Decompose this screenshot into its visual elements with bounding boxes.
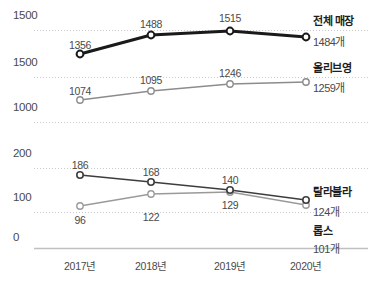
chart-container: 1500 1500 1000 200 100 0 2017년 2018년 201…: [0, 0, 371, 287]
point-label-olive-2017: 1074: [69, 85, 91, 97]
data-point: [77, 51, 84, 58]
x-tick-2017: 2017년: [64, 258, 96, 273]
legend-value-total-stores: 1484개: [313, 33, 345, 49]
point-label-olive-2019: 1246: [219, 67, 241, 79]
point-label-total-2018: 1488: [140, 18, 162, 30]
data-point: [227, 81, 233, 87]
data-point: [148, 88, 154, 94]
data-point: [303, 197, 309, 203]
point-label-lohbs-2018: 122: [143, 211, 159, 223]
legend-label-olive-young: 올리브영: [313, 59, 351, 75]
data-point: [77, 97, 83, 103]
point-label-lalavla-2018: 168: [143, 166, 159, 178]
data-point: [148, 191, 154, 197]
legend-value-lalavla: 124개: [313, 203, 339, 219]
data-point: [77, 203, 83, 209]
legend-label-lalavla: 랄라블라: [313, 183, 351, 199]
x-tick-2018: 2018년: [135, 258, 167, 273]
series-lohbs: [77, 189, 309, 209]
data-point: [148, 32, 155, 39]
y-tick-1500-mid: 1500: [13, 56, 37, 68]
data-point: [227, 28, 234, 35]
legend-value-lohbs: 101개: [313, 240, 339, 256]
y-tick-1000-mid: 1000: [13, 101, 37, 113]
point-label-lohbs-2017: 96: [75, 214, 86, 226]
series-olive-young: [77, 79, 309, 103]
point-label-total-2017: 1356: [69, 39, 91, 51]
x-tick-2020: 2020년: [290, 258, 322, 273]
data-point: [148, 179, 154, 185]
point-label-total-2019: 1515: [219, 12, 241, 24]
point-label-lohbs-2019: 129: [222, 199, 238, 211]
data-point: [227, 187, 233, 193]
x-tick-2019: 2019년: [214, 258, 246, 273]
point-label-olive-2018: 1095: [140, 74, 162, 86]
legend-label-lohbs: 롭스: [313, 222, 332, 238]
legend-label-total-stores: 전체 매장: [313, 12, 354, 28]
data-point: [303, 79, 309, 85]
data-point: [303, 34, 310, 41]
y-tick-200: 200: [13, 147, 31, 159]
legend-value-olive-young: 1259개: [313, 79, 345, 95]
point-label-lalavla-2017: 186: [72, 159, 88, 171]
data-point: [77, 172, 83, 178]
y-tick-0: 0: [13, 231, 19, 243]
y-tick-1500-top: 1500: [13, 9, 37, 21]
point-label-lalavla-2019: 140: [222, 174, 238, 186]
series-total-stores: [77, 28, 310, 58]
series-lalavla: [77, 172, 309, 203]
y-tick-100: 100: [13, 191, 31, 203]
